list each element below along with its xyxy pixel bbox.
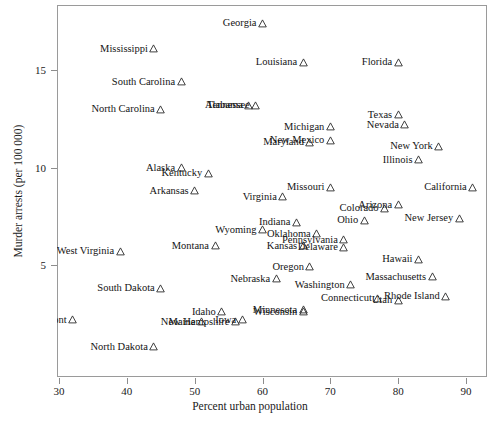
data-point-label: California [424, 182, 467, 193]
data-point-label: Louisiana [256, 57, 297, 68]
data-point-label: Wisconsin [253, 307, 297, 318]
x-tick-mark [263, 378, 264, 384]
data-point-label: Vermont [57, 314, 67, 325]
data-point-label: Connecticut [321, 293, 372, 304]
data-point-label: Iowa [215, 314, 236, 325]
x-tick-label: 50 [189, 385, 200, 397]
data-point-label: Hawaii [382, 254, 412, 265]
data-point-label: Illinois [383, 154, 413, 165]
data-point-label: Michigan [284, 121, 324, 132]
y-tick-mark [51, 70, 57, 71]
data-point-label: Rhode Island [384, 291, 440, 302]
data-point-label: Oregon [272, 262, 304, 273]
x-tick-label: 40 [121, 385, 132, 397]
x-tick-mark [466, 378, 467, 384]
data-point-label: North Carolina [91, 104, 154, 115]
data-point-label: Montana [172, 240, 209, 251]
plot-data-area: GeorgiaMississippiLouisianaFloridaSouth … [57, 5, 487, 377]
data-point-label: Florida [362, 57, 392, 68]
data-point-label: Nevada [367, 119, 399, 130]
data-point-label: Arkansas [150, 186, 189, 197]
data-point-label: Massachusetts [365, 271, 426, 282]
data-point-label: Washington [295, 279, 345, 290]
scatter-plot-figure: GeorgiaMississippiLouisianaFloridaSouth … [0, 0, 500, 433]
data-point-label: West Virginia [57, 246, 114, 257]
data-point-label: South Dakota [97, 283, 154, 294]
data-point-label: New Jersey [405, 213, 454, 224]
x-tick-label: 80 [393, 385, 404, 397]
x-tick-mark [330, 378, 331, 384]
x-tick-label: 70 [325, 385, 336, 397]
data-point-label: Ohio [337, 215, 358, 226]
data-point-label: North Dakota [91, 342, 148, 353]
y-tick-label: 15 [0, 64, 46, 76]
x-tick-mark [59, 378, 60, 384]
data-point-label: Nebraska [230, 273, 270, 284]
data-point-label: Virginia [243, 192, 277, 203]
y-tick-mark [51, 168, 57, 169]
x-tick-label: 30 [54, 385, 65, 397]
y-tick-mark [51, 265, 57, 266]
y-axis-label: Murder arrests (per 100 000) [12, 81, 24, 301]
data-point-label: Missouri [287, 182, 324, 193]
data-point-label: Kentucky [161, 168, 202, 179]
x-axis-label: Percent urban population [0, 400, 500, 412]
x-tick-label: 90 [461, 385, 472, 397]
data-point-label: South Carolina [112, 76, 175, 87]
data-point-label: Maryland [263, 137, 304, 148]
data-point-label: Mississippi [100, 43, 148, 54]
data-point-label: Georgia [223, 18, 257, 29]
x-tick-mark [195, 378, 196, 384]
x-tick-mark [127, 378, 128, 384]
data-point-label: Kansas [267, 240, 297, 251]
data-point-label: Wyoming [215, 225, 256, 236]
x-tick-mark [398, 378, 399, 384]
data-point-label: Colorado [340, 203, 379, 214]
x-tick-label: 60 [257, 385, 268, 397]
data-point-label: Tennessee [207, 100, 250, 111]
data-point-label: New York [390, 141, 433, 152]
data-point-label: Delaware [298, 242, 338, 253]
